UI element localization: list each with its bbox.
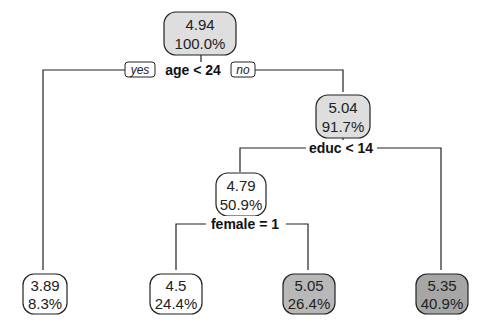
- node-value: 5.05: [294, 277, 323, 294]
- tree-edges: [43, 55, 441, 270]
- leaf-female-no: 5.05 26.4%: [283, 274, 335, 314]
- edge-educ-left: [240, 148, 306, 172]
- node-value: 4.79: [226, 177, 255, 194]
- node-percent: 91.7%: [322, 118, 365, 135]
- node-value: 5.35: [427, 277, 456, 294]
- split-label-age: age < 24: [165, 62, 221, 78]
- no-label: no: [236, 63, 250, 77]
- node-female: 4.79 50.9%: [216, 173, 266, 216]
- node-percent: 24.4%: [155, 295, 198, 312]
- split-label-female: female = 1: [211, 216, 279, 232]
- node-percent: 50.9%: [220, 196, 263, 213]
- node-educ: 5.04 91.7%: [316, 95, 370, 138]
- node-value: 4.94: [185, 16, 214, 33]
- leaf-female-yes: 4.5 24.4%: [150, 274, 202, 314]
- node-percent: 100.0%: [175, 35, 226, 52]
- node-percent: 26.4%: [288, 295, 331, 312]
- node-percent: 8.3%: [28, 295, 62, 312]
- node-value: 3.89: [30, 277, 59, 294]
- edge-root-left: [43, 70, 125, 270]
- decision-tree: 4.94 100.0% yes age < 24 no 5.04 91.7% e…: [0, 0, 489, 330]
- yes-label: yes: [130, 63, 150, 77]
- edge-female-right: [286, 224, 308, 270]
- node-value: 4.5: [166, 277, 187, 294]
- split-label-educ: educ < 14: [309, 140, 373, 156]
- node-root: 4.94 100.0%: [164, 12, 236, 55]
- split-age: yes age < 24 no: [125, 62, 255, 78]
- node-value: 5.04: [328, 99, 357, 116]
- node-percent: 40.9%: [421, 295, 464, 312]
- edge-female-left: [176, 224, 206, 270]
- leaf-age-yes: 3.89 8.3%: [23, 274, 67, 314]
- leaf-educ-no: 5.35 40.9%: [416, 274, 468, 314]
- edge-educ-right: [377, 148, 441, 270]
